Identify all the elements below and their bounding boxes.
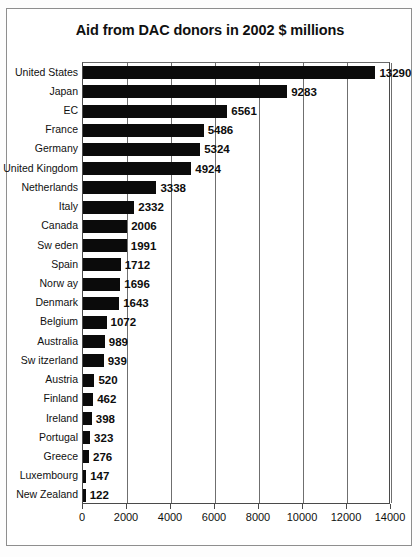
bar xyxy=(83,316,107,329)
bar-value-label: 13290 xyxy=(375,67,411,79)
bar-value-label: 989 xyxy=(105,336,128,348)
bar xyxy=(83,297,119,310)
chart-figure: Aid from DAC donors in 2002 $ millions U… xyxy=(0,0,420,557)
bar xyxy=(83,181,156,194)
bar-value-label: 462 xyxy=(93,393,116,405)
x-tick-mark xyxy=(258,504,259,509)
bar-row: 13290 xyxy=(83,66,389,79)
bar-row: 5324 xyxy=(83,143,389,156)
bar xyxy=(83,374,94,387)
bar-row: 989 xyxy=(83,335,389,348)
bar-value-label: 147 xyxy=(86,470,109,482)
bar-row: 1643 xyxy=(83,297,389,310)
x-tick-label: 2000 xyxy=(114,511,138,523)
bar xyxy=(83,143,200,156)
bar-value-label: 1643 xyxy=(119,297,149,309)
y-axis-category-label: Belgium xyxy=(0,315,78,327)
bar-series: 1329092836561548653244924333823322006199… xyxy=(83,63,389,503)
y-axis-category-label: New Zealand xyxy=(0,488,78,500)
bar-value-label: 9283 xyxy=(287,86,317,98)
plot-area: 1329092836561548653244924333823322006199… xyxy=(82,62,390,504)
bar-value-label: 122 xyxy=(86,489,109,501)
bar-value-label: 6561 xyxy=(227,105,257,117)
y-axis-category-label: Japan xyxy=(0,85,78,97)
y-axis-category-label: Sw itzerland xyxy=(0,354,78,366)
bar-value-label: 398 xyxy=(92,413,115,425)
bar-value-label: 1696 xyxy=(120,278,150,290)
x-tick-label: 4000 xyxy=(158,511,182,523)
y-axis-category-label: Greece xyxy=(0,450,78,462)
bar xyxy=(83,431,90,444)
bar xyxy=(83,258,121,271)
bar-row: 398 xyxy=(83,412,389,425)
chart-title: Aid from DAC donors in 2002 $ millions xyxy=(0,22,420,38)
x-tick-label: 8000 xyxy=(246,511,270,523)
bar-row: 323 xyxy=(83,431,389,444)
bar xyxy=(83,239,127,252)
y-axis-category-label: Spain xyxy=(0,258,78,270)
bar-value-label: 1072 xyxy=(107,316,137,328)
bar xyxy=(83,85,287,98)
y-axis-category-label: Finland xyxy=(0,392,78,404)
y-axis-category-label: Italy xyxy=(0,200,78,212)
bar-value-label: 1991 xyxy=(127,240,157,252)
y-axis-category-label: EC xyxy=(0,104,78,116)
bar-row: 462 xyxy=(83,393,389,406)
y-axis-category-labels: United StatesJapanECFranceGermanyUnited … xyxy=(0,62,78,504)
bar-row: 9283 xyxy=(83,85,389,98)
y-axis-category-label: Canada xyxy=(0,219,78,231)
y-axis-category-label: Norw ay xyxy=(0,277,78,289)
y-axis-category-label: United States xyxy=(0,66,78,78)
bar xyxy=(83,412,92,425)
x-tick-mark xyxy=(126,504,127,509)
bar-value-label: 5486 xyxy=(204,124,234,136)
bar-row: 2006 xyxy=(83,220,389,233)
bar-row: 6561 xyxy=(83,105,389,118)
bar xyxy=(83,66,375,79)
x-tick-label: 12000 xyxy=(331,511,362,523)
bar-value-label: 4924 xyxy=(191,163,221,175)
bar-value-label: 3338 xyxy=(156,182,186,194)
y-axis-category-label: Denmark xyxy=(0,296,78,308)
x-tick-label: 6000 xyxy=(202,511,226,523)
y-axis-category-label: United Kingdom xyxy=(0,162,78,174)
y-axis-category-label: France xyxy=(0,123,78,135)
bar-row: 276 xyxy=(83,450,389,463)
y-axis-category-label: Germany xyxy=(0,142,78,154)
bar xyxy=(83,162,191,175)
gridline xyxy=(391,63,392,503)
bar xyxy=(83,124,204,137)
y-axis-category-label: Australia xyxy=(0,335,78,347)
bar xyxy=(83,201,134,214)
bar-value-label: 520 xyxy=(94,374,117,386)
y-axis-category-label: Ireland xyxy=(0,412,78,424)
bar-row: 1991 xyxy=(83,239,389,252)
x-tick-label: 0 xyxy=(79,511,85,523)
bar-row: 5486 xyxy=(83,124,389,137)
x-axis-tick-marks xyxy=(82,504,390,510)
y-axis-category-label: Portugal xyxy=(0,431,78,443)
bar-row: 1072 xyxy=(83,316,389,329)
bar-row: 122 xyxy=(83,489,389,502)
y-axis-category-label: Austria xyxy=(0,373,78,385)
bar-row: 3338 xyxy=(83,181,389,194)
bar xyxy=(83,393,93,406)
bar-row: 2332 xyxy=(83,201,389,214)
x-tick-mark xyxy=(302,504,303,509)
bar-row: 520 xyxy=(83,374,389,387)
bar-value-label: 1712 xyxy=(121,259,151,271)
bar xyxy=(83,335,105,348)
bar-value-label: 939 xyxy=(104,355,127,367)
x-tick-mark xyxy=(170,504,171,509)
x-tick-mark xyxy=(390,504,391,509)
bar xyxy=(83,105,227,118)
x-tick-label: 14000 xyxy=(375,511,406,523)
bar-value-label: 2006 xyxy=(127,220,157,232)
y-axis-category-label: Sw eden xyxy=(0,239,78,251)
bar xyxy=(83,354,104,367)
bar-row: 147 xyxy=(83,470,389,483)
bar xyxy=(83,220,127,233)
x-tick-label: 10000 xyxy=(287,511,318,523)
bar-value-label: 323 xyxy=(90,432,113,444)
bar-row: 1712 xyxy=(83,258,389,271)
